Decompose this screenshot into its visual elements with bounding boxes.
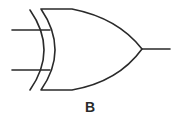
gate-label: B bbox=[78, 99, 102, 115]
gate-body bbox=[41, 9, 142, 90]
xor-back-curve bbox=[30, 10, 44, 90]
